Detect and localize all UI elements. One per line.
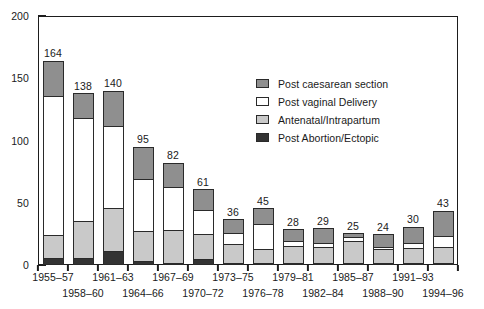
bar-stack: 140 xyxy=(103,91,124,265)
bar-segment[interactable] xyxy=(433,211,454,236)
bar-stack: 29 xyxy=(313,228,334,265)
y-axis-labels: 200150100500 xyxy=(0,16,34,265)
bar-stack: 45 xyxy=(253,208,274,265)
bar-segment[interactable] xyxy=(103,126,124,208)
legend-item[interactable]: Antenatal/Intrapartum xyxy=(256,112,426,128)
bar-segment[interactable] xyxy=(403,227,424,243)
legend-swatch-icon xyxy=(256,133,269,142)
bar-total-label: 138 xyxy=(74,81,92,92)
x-axis-tick-label: 1985–87 xyxy=(332,272,374,283)
bar-segment[interactable] xyxy=(433,247,454,263)
legend-swatch-icon xyxy=(256,97,269,106)
legend-swatch-icon xyxy=(256,79,269,88)
x-axis-labels: 1955–571958–601961–631964–661967–691970–… xyxy=(0,264,484,304)
bar-stack: 138 xyxy=(73,93,94,265)
x-axis-tick-label: 1958–60 xyxy=(62,288,104,299)
bar-segment[interactable] xyxy=(283,246,304,263)
bar-segment[interactable] xyxy=(163,163,184,187)
bar-stack: 82 xyxy=(163,163,184,265)
bar-segment[interactable] xyxy=(193,234,214,259)
bar-total-label: 45 xyxy=(257,196,269,207)
bar-group[interactable]: 140 xyxy=(103,16,124,265)
bar-group[interactable]: 164 xyxy=(43,16,64,265)
bar-stack: 24 xyxy=(373,234,394,265)
bar-segment[interactable] xyxy=(133,231,154,261)
bar-total-label: 29 xyxy=(317,216,329,227)
bar-segment[interactable] xyxy=(133,179,154,231)
bar-segment[interactable] xyxy=(193,210,214,234)
bar-segment[interactable] xyxy=(313,247,334,263)
bar-segment[interactable] xyxy=(73,118,94,221)
bar-segment[interactable] xyxy=(43,61,64,96)
x-axis-tick-label: 1967–69 xyxy=(152,272,194,283)
bar-stack: 61 xyxy=(193,189,214,265)
bar-total-label: 28 xyxy=(287,217,299,228)
y-axis-tick-label: 200 xyxy=(11,11,29,22)
bar-segment[interactable] xyxy=(283,229,304,240)
x-axis-tick-label: 1961–63 xyxy=(92,272,134,283)
bar-segment[interactable] xyxy=(223,219,244,233)
bar-segment[interactable] xyxy=(433,236,454,247)
legend-item[interactable]: Post Abortion/Ectopic xyxy=(256,130,426,146)
bar-total-label: 24 xyxy=(377,222,389,233)
bar-stack: 95 xyxy=(133,147,154,265)
y-axis-tick-label: 150 xyxy=(11,73,29,84)
legend-item-label: Post Abortion/Ectopic xyxy=(278,133,379,144)
x-axis-tick-label: 1982–84 xyxy=(302,288,344,299)
bar-segment[interactable] xyxy=(373,249,394,263)
x-axis-tick-label: 1979–81 xyxy=(272,272,314,283)
bar-segment[interactable] xyxy=(163,230,184,262)
bar-segment[interactable] xyxy=(373,234,394,246)
x-axis-tick-label: 1964–66 xyxy=(122,288,164,299)
bar-total-label: 30 xyxy=(407,214,419,225)
bar-segment[interactable] xyxy=(73,93,94,118)
bar-group[interactable]: 43 xyxy=(433,16,454,265)
bar-segment[interactable] xyxy=(403,248,424,263)
bar-segment[interactable] xyxy=(43,235,64,257)
legend-item-label: Post caesarean section xyxy=(278,79,388,90)
bar-segment[interactable] xyxy=(103,91,124,126)
x-axis-tick-label: 1994–96 xyxy=(422,288,464,299)
x-axis-tick-label: 1976–78 xyxy=(242,288,284,299)
bar-group[interactable]: 82 xyxy=(163,16,184,265)
bar-stack: 25 xyxy=(343,233,364,265)
bar-segment[interactable] xyxy=(193,189,214,210)
bar-segment[interactable] xyxy=(313,228,334,243)
chart-legend: Post caesarean sectionPost vaginal Deliv… xyxy=(256,76,426,148)
bar-total-label: 36 xyxy=(227,207,239,218)
bar-segment[interactable] xyxy=(223,244,244,263)
bar-stack: 43 xyxy=(433,211,454,265)
x-axis-tick-label: 1973–75 xyxy=(212,272,254,283)
bar-group[interactable]: 36 xyxy=(223,16,244,265)
bar-segment[interactable] xyxy=(253,208,274,224)
bar-group[interactable]: 138 xyxy=(73,16,94,265)
bar-segment[interactable] xyxy=(253,224,274,249)
x-axis-tick-label: 1955–57 xyxy=(32,272,74,283)
bar-segment[interactable] xyxy=(223,233,244,244)
bar-stack: 36 xyxy=(223,219,244,265)
bar-total-label: 25 xyxy=(347,221,359,232)
bar-total-label: 164 xyxy=(44,48,62,59)
bar-segment[interactable] xyxy=(103,251,124,265)
bar-segment[interactable] xyxy=(163,187,184,231)
y-axis-tick-label: 100 xyxy=(11,135,29,146)
x-axis-tick-label: 1988–90 xyxy=(362,288,404,299)
bar-segment[interactable] xyxy=(253,249,274,263)
bar-stack: 28 xyxy=(283,229,304,265)
stacked-bar-chart: 200150100500 164138140958261364528292524… xyxy=(0,0,484,309)
legend-item[interactable]: Post caesarean section xyxy=(256,76,426,92)
bar-group[interactable]: 95 xyxy=(133,16,154,265)
bar-segment[interactable] xyxy=(103,208,124,252)
x-axis-tick-label: 1991–93 xyxy=(392,272,434,283)
bar-total-label: 140 xyxy=(104,78,122,89)
bar-segment[interactable] xyxy=(133,147,154,179)
bar-group[interactable]: 61 xyxy=(193,16,214,265)
bar-segment[interactable] xyxy=(343,241,364,263)
legend-item[interactable]: Post vaginal Delivery xyxy=(256,94,426,110)
bar-total-label: 82 xyxy=(167,150,179,161)
x-axis-tick-label: 1970–72 xyxy=(182,288,224,299)
bar-stack: 164 xyxy=(43,61,64,265)
bar-segment[interactable] xyxy=(43,96,64,235)
legend-item-label: Antenatal/Intrapartum xyxy=(278,115,380,126)
bar-segment[interactable] xyxy=(73,221,94,257)
